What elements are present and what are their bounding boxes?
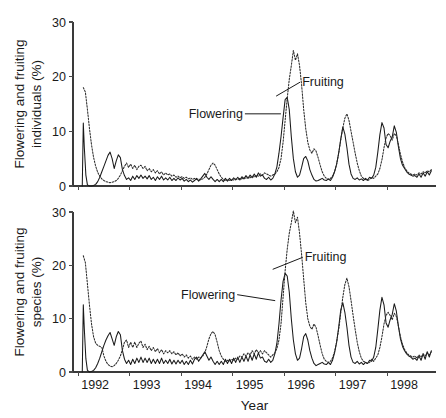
series-flowering-bottom xyxy=(82,273,431,372)
annotation-flowering-top: Flowering xyxy=(189,107,243,121)
x-tick-label-bottom-5: 1997 xyxy=(339,378,367,392)
y-tick-label-top-3: 30 xyxy=(52,16,66,30)
leader-flowering-bottom xyxy=(237,295,275,301)
series-fruiting-top xyxy=(83,50,431,182)
x-tick-label-bottom-3: 1995 xyxy=(236,378,264,392)
series-fruiting-bottom xyxy=(83,211,431,367)
x-axis-title-bottom: Year xyxy=(241,398,269,413)
y-tick-label-bottom-1: 10 xyxy=(52,312,66,326)
y-tick-label-bottom-3: 30 xyxy=(52,206,66,220)
annotation-flowering-bottom: Flowering xyxy=(181,288,235,302)
chart-canvas: 0102030FloweringFruitingFlowering and fr… xyxy=(0,0,446,418)
x-tick-label-bottom-4: 1996 xyxy=(287,378,315,392)
panel-top: 0102030FloweringFruitingFlowering and fr… xyxy=(12,16,436,194)
x-tick-label-bottom-0: 1992 xyxy=(81,378,109,392)
y-tick-label-bottom-0: 0 xyxy=(59,366,66,380)
phenology-figure: 0102030FloweringFruitingFlowering and fr… xyxy=(0,0,446,418)
y-tick-label-bottom-2: 20 xyxy=(52,259,66,273)
y-axis-title-line1-top: Flowering and fruiting xyxy=(12,39,27,168)
panel-bottom: 01020301992199319941995199619971998Flowe… xyxy=(12,206,436,414)
y-axis-title-line1-bottom: Flowering and fruiting xyxy=(12,227,27,356)
y-tick-label-top-1: 10 xyxy=(52,125,66,139)
x-tick-label-bottom-2: 1994 xyxy=(184,378,212,392)
annotation-fruiting-bottom: Fruiting xyxy=(305,250,347,264)
x-tick-label-bottom-1: 1993 xyxy=(133,378,161,392)
y-tick-label-top-0: 0 xyxy=(59,180,66,194)
y-axis-title-line2-top: individuals (%) xyxy=(29,60,44,148)
annotation-fruiting-top: Fruiting xyxy=(302,75,344,89)
y-axis-title-line2-bottom: species (%) xyxy=(29,257,44,328)
series-flowering-top xyxy=(82,97,431,186)
x-tick-label-bottom-6: 1998 xyxy=(390,378,418,392)
leader-fruiting-bottom xyxy=(273,257,303,269)
y-tick-label-top-2: 20 xyxy=(52,70,66,84)
